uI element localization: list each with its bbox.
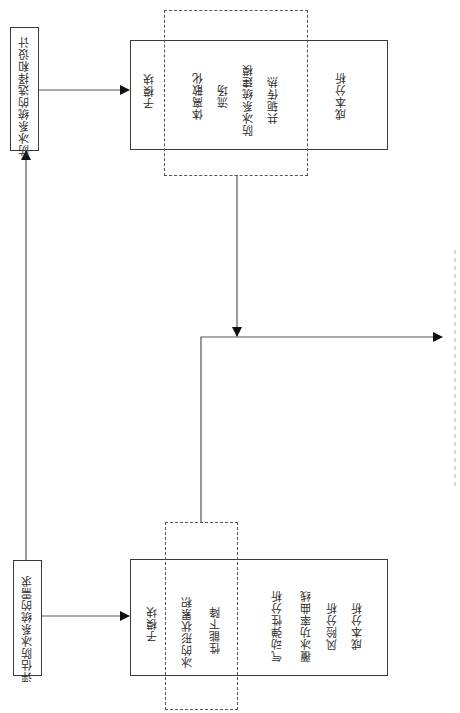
top-module-item: 体离散化 bbox=[193, 72, 204, 120]
bottom-module-dashed-group bbox=[165, 522, 238, 710]
bottom-module-item: 成本分析 bbox=[352, 602, 363, 650]
node-requirements-label: 评估防冰系统的需求 bbox=[22, 575, 33, 683]
bottom-module-item: 冰的形状累积 bbox=[182, 596, 193, 668]
top-module-header: 子模块 bbox=[144, 73, 155, 109]
node-selection-design: 防冰系统的选择和设计 bbox=[10, 27, 39, 151]
node-selection-design-label: 防冰系统的选择和设计 bbox=[19, 36, 30, 156]
bottom-module-item: 风险分析 bbox=[327, 602, 338, 650]
bottom-module-item: 覆冰功率曲线 bbox=[301, 590, 312, 662]
top-module-item: 防冰系统建模 bbox=[243, 64, 254, 136]
bottom-module-item: 气动弹性分析 bbox=[272, 590, 283, 662]
top-module-item: 流场 bbox=[218, 84, 229, 108]
top-module-dashed-group bbox=[164, 10, 308, 176]
top-module-item: 共轭传热 bbox=[268, 76, 279, 124]
bottom-module-item: 性能下降 bbox=[210, 606, 221, 654]
top-module-item: 成本分析 bbox=[336, 72, 347, 120]
line-bottom-module-to-merge bbox=[201, 337, 237, 522]
figure-caption bbox=[454, 250, 456, 490]
node-requirements: 评估防冰系统的需求 bbox=[13, 560, 42, 676]
bottom-module-header: 子模块 bbox=[147, 606, 158, 642]
